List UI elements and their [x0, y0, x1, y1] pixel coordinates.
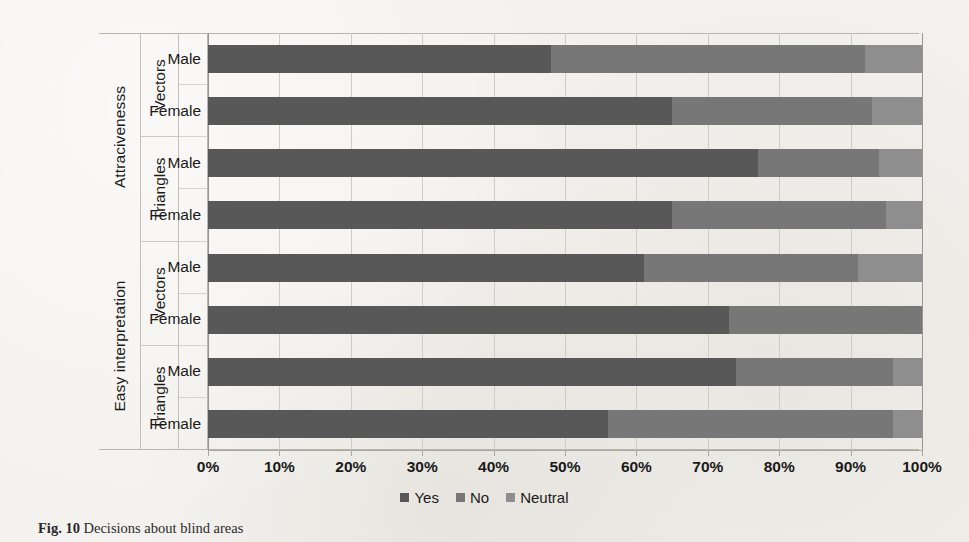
x-axis-tick [422, 450, 423, 456]
row-label-text: Male [167, 362, 201, 380]
x-axis-tick-label: 30% [407, 458, 438, 476]
x-axis-tick-label: 40% [478, 458, 509, 476]
chart-legend: Yes No Neutral [0, 489, 969, 506]
bar-row [208, 358, 922, 386]
row-label-text: Female [149, 102, 201, 120]
row-label-text: Male [167, 258, 201, 276]
category-label-attractiveness: Attracivenesss [99, 33, 141, 242]
legend-swatch-icon [456, 493, 465, 502]
row-label-cell: Male [179, 137, 208, 189]
x-axis-tick [279, 450, 280, 456]
bar-segment-neutral[interactable] [872, 97, 922, 125]
bar-segment-neutral[interactable] [879, 149, 922, 177]
legend-swatch-icon [506, 493, 515, 502]
category-label-text: Easy interpretation [111, 280, 129, 411]
row-label-cell: Female [179, 398, 208, 450]
gridline [208, 33, 209, 450]
bar-segment-yes[interactable] [208, 45, 551, 73]
x-axis-tick [565, 450, 566, 456]
bar-segment-yes[interactable] [208, 201, 672, 229]
legend-item-no[interactable]: No [456, 489, 489, 506]
legend-label: Yes [414, 489, 438, 506]
gridline [494, 33, 495, 450]
gridline [708, 33, 709, 450]
gridline [922, 33, 923, 450]
x-axis-tick-label: 80% [764, 458, 795, 476]
bar-segment-neutral[interactable] [893, 358, 922, 386]
bar-segment-no[interactable] [758, 149, 879, 177]
bar-row [208, 97, 922, 125]
bar-row [208, 306, 922, 334]
bar-segment-no[interactable] [672, 97, 872, 125]
x-axis-tick-label: 100% [902, 458, 942, 476]
row-label-text: Male [167, 154, 201, 172]
x-axis-tick [351, 450, 352, 456]
row-label-text: Female [149, 415, 201, 433]
bar-segment-yes[interactable] [208, 149, 758, 177]
x-axis-tick-label: 10% [264, 458, 295, 476]
category-label-easy-interpretation: Easy interpretation [99, 242, 141, 451]
x-axis-tick [636, 450, 637, 456]
category-label-text: Attracivenesss [111, 86, 129, 188]
legend-label: No [470, 489, 489, 506]
bar-segment-no[interactable] [551, 45, 865, 73]
row-label-cell: Male [179, 346, 208, 398]
bar-segment-neutral[interactable] [858, 254, 922, 282]
gridline [565, 33, 566, 450]
row-label-cell: Female [179, 294, 208, 346]
bar-segment-yes[interactable] [208, 97, 672, 125]
row-label-cell: Male [179, 33, 208, 85]
stacked-bar-chart: Attracivenesss Easy interpretation Vecto… [0, 0, 969, 542]
bar-segment-neutral[interactable] [865, 45, 922, 73]
row-label-cell: Female [179, 189, 208, 241]
x-axis-tick-label: 60% [621, 458, 652, 476]
bar-segment-yes[interactable] [208, 358, 736, 386]
x-axis-tick [851, 450, 852, 456]
legend-swatch-icon [400, 493, 409, 502]
legend-item-yes[interactable]: Yes [400, 489, 438, 506]
x-axis-tick [922, 450, 923, 456]
row-label-text: Female [149, 206, 201, 224]
x-axis-tick-label: 70% [692, 458, 723, 476]
x-axis-tick [708, 450, 709, 456]
gridline [779, 33, 780, 450]
bar-segment-yes[interactable] [208, 410, 608, 438]
bar-segment-no[interactable] [608, 410, 894, 438]
bar-row [208, 201, 922, 229]
bar-row [208, 410, 922, 438]
legend-item-neutral[interactable]: Neutral [506, 489, 568, 506]
bar-segment-no[interactable] [729, 306, 922, 334]
bar-segment-neutral[interactable] [893, 410, 922, 438]
figure-caption: Fig. 10 Decisions about blind areas [38, 520, 243, 537]
bar-segment-no[interactable] [672, 201, 886, 229]
bar-row [208, 149, 922, 177]
row-label-text: Female [149, 310, 201, 328]
legend-label: Neutral [520, 489, 568, 506]
figure-caption-label: Fig. 10 [38, 520, 80, 536]
gridline [279, 33, 280, 450]
gridline [422, 33, 423, 450]
x-axis-tick [208, 450, 209, 456]
plot-area-frame [99, 33, 919, 450]
x-axis-tick [779, 450, 780, 456]
row-label-text: Male [167, 50, 201, 68]
x-axis-tick-label: 20% [335, 458, 366, 476]
row-label-cell: Female [179, 85, 208, 137]
x-axis-tick [494, 450, 495, 456]
gridline [851, 33, 852, 450]
gridline [351, 33, 352, 450]
bar-segment-yes[interactable] [208, 306, 729, 334]
x-axis-tick-label: 0% [197, 458, 219, 476]
bar-segment-neutral[interactable] [886, 201, 922, 229]
x-axis-tick-label: 90% [835, 458, 866, 476]
bar-segment-yes[interactable] [208, 254, 644, 282]
row-label-cell: Male [179, 242, 208, 294]
figure-caption-text: Decisions about blind areas [84, 520, 244, 536]
bar-row [208, 45, 922, 73]
bar-segment-no[interactable] [644, 254, 858, 282]
bar-row [208, 254, 922, 282]
x-axis-tick-label: 50% [549, 458, 580, 476]
gridline [636, 33, 637, 450]
bar-segment-no[interactable] [736, 358, 893, 386]
